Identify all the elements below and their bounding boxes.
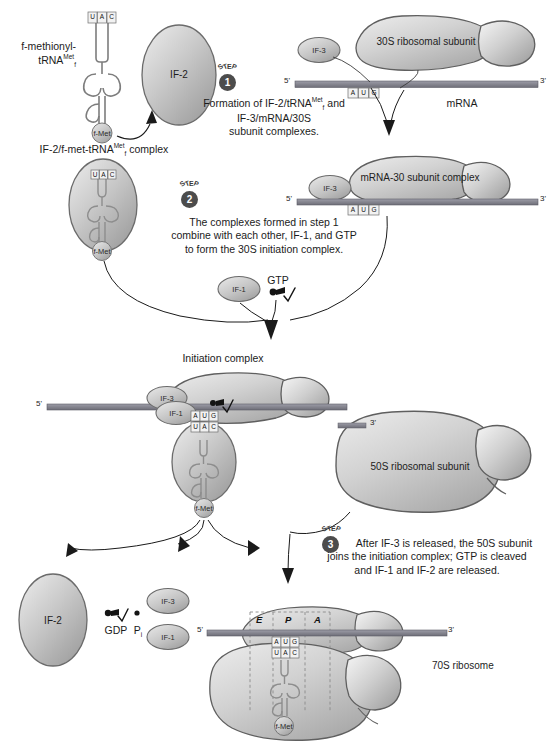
70s-50s-head bbox=[346, 655, 401, 710]
mrna-bar-70s bbox=[207, 630, 447, 636]
arrow-to-30s-complex bbox=[383, 120, 395, 136]
anticodon-letter-u-init: U bbox=[191, 423, 200, 430]
mrna-5prime-70s: 5' bbox=[197, 625, 203, 634]
phosphate-dot bbox=[134, 610, 139, 615]
arrow-to-70s bbox=[248, 540, 260, 556]
step-1-text: Formation of IF-2/tRNAMetf andIF-3/mRNA/… bbox=[176, 96, 372, 139]
mrna-30-complex-label: mRNA-30 subunit complex bbox=[350, 172, 490, 183]
if2-label-top: IF-2 bbox=[149, 69, 209, 80]
codon-letter-g-init: G bbox=[209, 412, 218, 419]
mrna-5prime-top: 5' bbox=[284, 76, 290, 85]
if3-label-top: IF-3 bbox=[299, 46, 339, 55]
mrna-3prime-mid: 3' bbox=[540, 194, 546, 203]
arrow-to-initiation-complex bbox=[264, 320, 278, 340]
30s-subunit-label-top: 30S ribosomal subunit bbox=[366, 36, 486, 47]
codon-letter-g-mid: G bbox=[369, 206, 379, 213]
fmet-trna-structure bbox=[84, 22, 121, 126]
fmet-label-init: f-Met bbox=[184, 504, 224, 513]
codon-letter-g-top: G bbox=[369, 89, 379, 96]
if1-label-released: IF-1 bbox=[148, 633, 188, 642]
if2-label-released: IF-2 bbox=[23, 615, 83, 626]
30s-subunit-head-top bbox=[479, 21, 535, 66]
step-1-badge: 1 bbox=[219, 74, 236, 91]
fmet-label-70s: f-Met bbox=[264, 722, 304, 731]
step-2-badge: 2 bbox=[181, 191, 198, 208]
codon-letter-u-70s: U bbox=[281, 638, 290, 645]
diagram-canvas: f-methionyl-tRNAMetf U A C f-Met IF-2 IF… bbox=[0, 0, 554, 742]
codon-letter-g-70s: G bbox=[290, 638, 299, 645]
anticodon-letter-u-mid: U bbox=[91, 171, 99, 178]
anticodon-letter-a-70s: A bbox=[281, 649, 290, 656]
50s-subunit-head bbox=[476, 425, 531, 480]
mrna-3prime-top: 3' bbox=[540, 76, 546, 85]
mrna-3prime-70s: 3' bbox=[448, 625, 454, 634]
if2-complex-label: IF-2/f-met-tRNAMetf complex bbox=[24, 142, 184, 158]
50s-subunit-label: 50S ribosomal subunit bbox=[360, 461, 480, 472]
initiation-complex-label: Initiation complex bbox=[148, 352, 298, 365]
codon-letter-a-top: A bbox=[348, 89, 358, 96]
mrna-3prime-stub bbox=[338, 423, 366, 428]
curve-50s-to-step3 bbox=[290, 512, 350, 534]
codon-letter-u-init: U bbox=[200, 412, 209, 419]
anticodon-letter-c-mid: C bbox=[108, 171, 116, 178]
mrna-bar-top bbox=[295, 81, 538, 88]
anticodon-letter-c-70s: C bbox=[290, 649, 299, 656]
codon-letter-a-70s: A bbox=[272, 638, 281, 645]
anticodon-letter-u-top: U bbox=[88, 13, 97, 20]
anticodon-letter-a-top: A bbox=[98, 13, 107, 20]
mrna-5prime-mid: 5' bbox=[286, 194, 292, 203]
if3-label-init: IF-3 bbox=[147, 394, 187, 403]
anticodon-letter-a-mid: A bbox=[100, 171, 108, 178]
anticodon-letter-a-init: A bbox=[200, 423, 209, 430]
if1-label-step2: IF-1 bbox=[219, 285, 259, 294]
30s-subunit-head-init bbox=[281, 377, 329, 417]
anticodon-letter-u-70s: U bbox=[272, 649, 281, 656]
step-3-text: After IF-3 is released, the 50S subunitj… bbox=[300, 537, 554, 577]
if1-label-init: IF-1 bbox=[156, 409, 196, 418]
70s-ribosome-label: 70S ribosome bbox=[432, 660, 532, 671]
arrow-to-released-factors bbox=[66, 543, 78, 557]
site-label-e: E bbox=[256, 614, 262, 625]
gtp-glyph-step2 bbox=[270, 287, 295, 301]
step-2-text: The complexes formed in step 1combine wi… bbox=[155, 216, 373, 256]
mrna-label-top: mRNA bbox=[432, 97, 492, 110]
anticodon-letter-c-top: C bbox=[107, 13, 116, 20]
codon-letter-u-top: U bbox=[359, 89, 369, 96]
anticodon-letter-c-init: C bbox=[209, 423, 218, 430]
step-2-word: STEP bbox=[180, 180, 198, 187]
step-3-word: STEP bbox=[322, 525, 340, 532]
gdp-glyph bbox=[105, 609, 128, 621]
site-label-p: P bbox=[285, 614, 291, 625]
arrow-step3-down bbox=[282, 568, 294, 584]
if3-label-mid: IF-3 bbox=[310, 184, 350, 193]
mrna-bar-init bbox=[47, 404, 347, 410]
codon-letter-u-mid: U bbox=[359, 206, 369, 213]
codon-letter-a-init: A bbox=[191, 412, 200, 419]
arrow-down-mid bbox=[178, 536, 190, 552]
mrna-bar-mid bbox=[297, 199, 538, 205]
fmet-label-mid: f-Met bbox=[82, 247, 122, 256]
mrna-5prime-init: 5' bbox=[36, 399, 42, 408]
step-1-word: STEP bbox=[218, 63, 236, 70]
fmet-label-top: f-Met bbox=[82, 129, 122, 138]
site-label-a: A bbox=[314, 614, 321, 625]
codon-letter-a-mid: A bbox=[348, 206, 358, 213]
mrna-3prime-init: 3' bbox=[370, 418, 376, 427]
fmet-trna-label: f-methionyl-tRNAMetf bbox=[6, 40, 76, 69]
gtp-label-step2: GTP bbox=[258, 274, 298, 287]
if3-label-released: IF-3 bbox=[148, 597, 188, 606]
